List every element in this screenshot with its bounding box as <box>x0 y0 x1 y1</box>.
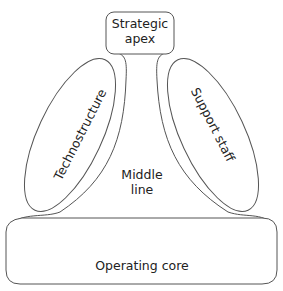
operating-core-label: Operating core <box>80 258 204 273</box>
middle-line-label: Middle line <box>112 167 172 197</box>
middle-line-line2: line <box>112 182 172 197</box>
operating-core-box <box>6 218 277 284</box>
strategic-apex-line1: Strategic <box>106 16 174 31</box>
middle-line-line1: Middle <box>112 167 172 182</box>
strategic-apex-label: Strategic apex <box>106 16 174 46</box>
strategic-apex-line2: apex <box>106 31 174 46</box>
